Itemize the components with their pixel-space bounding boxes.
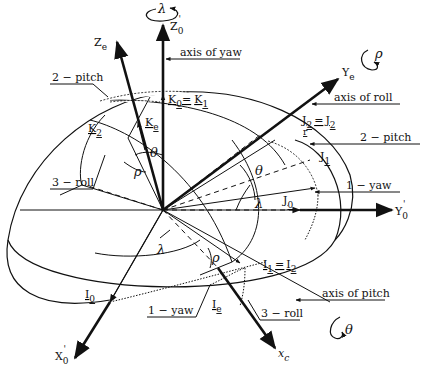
axis-of-pitch-label: axis of pitch [322,287,390,300]
roll-marker-label: ρ [374,46,383,61]
ie-label: Ie [212,298,222,314]
i1-eq-i2-label: I1=I2 [263,258,296,274]
roll-bottom-label: 3 − roll [261,307,304,320]
yaw-marker-label: λ [157,1,166,16]
x0-axis [75,302,110,358]
ye-label: Ye [341,66,355,82]
ke-label: Ke [145,116,159,132]
reference-lines [85,95,310,270]
lambda-label-right: λ [254,196,263,211]
origin-point [161,208,164,211]
yaw-right-label: 1 − yaw [346,179,392,192]
z0-label: Z0' [170,14,184,36]
yaw-bottom-label: 1 − yaw [148,304,194,317]
pitch-left-label: 2 − pitch [52,71,103,84]
j0-label: J0 [282,194,293,210]
theta-label-right: θ [255,163,263,178]
euler-angle-diagram: λ ρ θ Z0' Ze Ye Y0' X0' xc K0=K1 Ke K2 J… [0,0,422,365]
k0-eq-k1-label: K0=K1 [168,93,208,109]
pitch-rotation-icon [330,317,342,339]
axis-of-yaw-label: axis of yaw [180,46,242,59]
diagram-canvas: λ ρ θ Z0' Ze Ye Y0' X0' xc K0=K1 Ke K2 J… [0,0,422,365]
theta-label-upper: θ [150,145,158,160]
ze-label: Ze [94,36,107,52]
rho-label-lower: ρ [211,250,220,265]
xe-label: xc [278,347,289,363]
y0-label: Y0' [394,199,408,221]
rho-label-upper: ρ [133,164,142,179]
j1-label: J1 [319,150,330,166]
lambda-label-lower: λ [156,242,165,257]
pitch-marker-label: θ [345,322,353,337]
pitch-right-label: 2 − pitch [360,131,411,144]
i0-label: I0 [85,288,95,304]
j2-r-mark: r [303,127,308,137]
roll-left-label: 3 − roll [52,176,95,189]
axis-of-roll-label: axis of roll [334,91,393,104]
callout-labels: axis of yaw axis of roll 2 − pitch 1 − y… [52,46,411,320]
x0-label: X0' [55,344,69,365]
